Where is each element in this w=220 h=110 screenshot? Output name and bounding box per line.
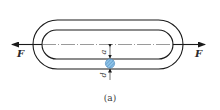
force-label-left: F	[16, 48, 25, 59]
dimension-d-label: d	[99, 72, 108, 77]
chain-link-diagram: F F a d (a)	[0, 0, 220, 110]
dimension-a-label: a	[99, 49, 108, 54]
rod-cross-section	[105, 59, 114, 68]
force-label-right: F	[194, 48, 203, 59]
figure-caption: (a)	[104, 93, 116, 103]
